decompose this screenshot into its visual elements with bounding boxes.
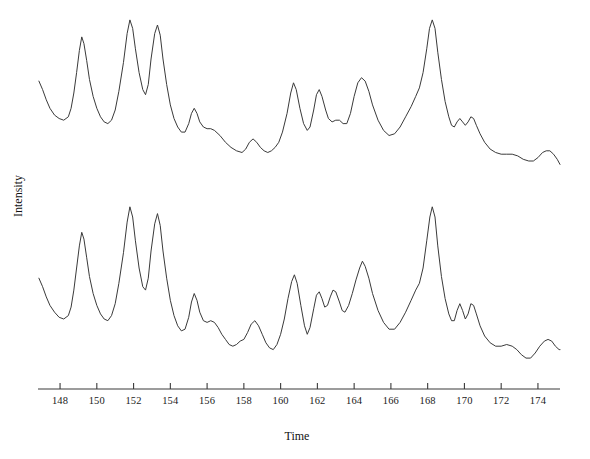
x-tick-label: 158 [236,395,252,406]
x-tick-label: 168 [419,395,435,406]
x-tick-label: 166 [383,395,399,406]
x-tick-label: 154 [162,395,179,406]
y-axis-title: Intensity [11,175,25,217]
x-tick-label: 156 [199,395,215,406]
x-tick-label: 172 [493,395,509,406]
x-tick-label: 162 [309,395,325,406]
x-tick-label: 150 [89,395,105,406]
x-tick-label: 174 [530,395,547,406]
x-tick-label: 160 [272,395,288,406]
chromatogram-plot: 1481501521541561581601621641661681701721… [0,0,590,459]
series-upper-trace [39,20,560,165]
x-tick-label: 148 [52,395,68,406]
x-axis-ticks: 1481501521541561581601621641661681701721… [52,383,547,406]
x-axis-title: Time [285,429,310,443]
x-tick-label: 152 [125,395,141,406]
x-tick-label: 170 [456,395,472,406]
series-lower-trace [39,207,560,358]
chart-figure: 1481501521541561581601621641661681701721… [0,0,590,459]
x-tick-label: 164 [346,395,363,406]
